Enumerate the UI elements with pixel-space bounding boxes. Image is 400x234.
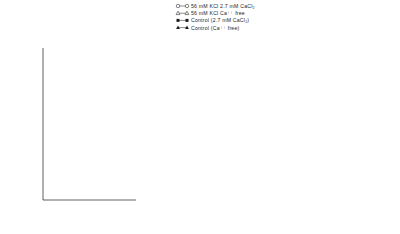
filled-triangle-icon [176, 26, 180, 29]
legend-label: 56 mM KCl 2.7 mM CaCl₂ [191, 3, 255, 9]
panel-a [43, 48, 136, 200]
filled-square-icon [177, 19, 180, 22]
legend: 56 mM KCl 2.7 mM CaCl₂56 mM KCl Ca⁺⁺ fre… [176, 3, 255, 31]
filled-triangle-icon [185, 26, 189, 29]
panels-container [43, 48, 136, 200]
legend-label: Control (Ca⁺⁺ free) [191, 25, 240, 31]
open-circle-icon [185, 4, 189, 8]
legend-item: Control (2.7 mM CaCl₂) [177, 17, 250, 23]
filled-square-icon [186, 19, 189, 22]
open-circle-icon [176, 4, 180, 8]
legend-item: Control (Ca⁺⁺ free) [176, 25, 239, 31]
legend-item: 56 mM KCl Ca⁺⁺ free [176, 10, 245, 16]
open-triangle-icon [185, 11, 189, 14]
figure-root: 56 mM KCl 2.7 mM CaCl₂56 mM KCl Ca⁺⁺ fre… [0, 0, 400, 234]
legend-label: Control (2.7 mM CaCl₂) [191, 17, 249, 23]
legend-label: 56 mM KCl Ca⁺⁺ free [191, 10, 245, 16]
legend-item: 56 mM KCl 2.7 mM CaCl₂ [176, 3, 255, 9]
open-triangle-icon [176, 11, 180, 14]
